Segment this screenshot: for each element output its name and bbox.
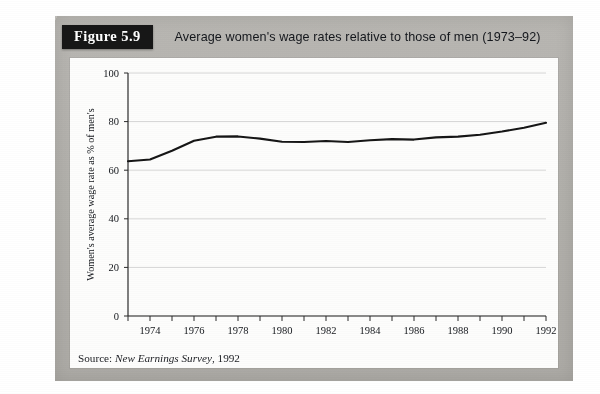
figure-title: Average women's wage rates relative to t… — [175, 30, 541, 44]
y-axis-group — [124, 73, 128, 316]
x-tick-label: 1982 — [316, 325, 337, 336]
y-tick-labels-group: 020406080100 — [103, 68, 119, 322]
y-tick-label: 0 — [114, 311, 119, 322]
x-axis-group — [128, 316, 546, 321]
gridlines-group — [128, 73, 546, 316]
x-tick-label: 1978 — [228, 325, 249, 336]
x-tick-labels-group: 1974197619781980198219841986198819901992 — [140, 325, 557, 336]
figure-number-badge: Figure 5.9 — [62, 25, 153, 49]
x-tick-label: 1990 — [492, 325, 513, 336]
x-tick-label: 1984 — [360, 325, 382, 336]
x-tick-label: 1992 — [536, 325, 557, 336]
y-axis-title-group: Women's average wage rate as % of men's — [85, 108, 96, 280]
y-tick-label: 40 — [109, 213, 120, 224]
data-series-group — [128, 123, 546, 161]
y-tick-label: 100 — [103, 68, 119, 79]
y-tick-label: 20 — [109, 262, 120, 273]
figure-root: Figure 5.9 Average women's wage rates re… — [0, 0, 600, 394]
source-prefix: Source: — [78, 352, 112, 364]
x-tick-label: 1988 — [448, 325, 469, 336]
x-tick-label: 1986 — [404, 325, 425, 336]
line-chart-svg: 020406080100 197419761978198019821984198… — [70, 58, 558, 368]
source-note: Source: New Earnings Survey, 1992 — [78, 352, 240, 364]
chart-plot-area: 020406080100 197419761978198019821984198… — [70, 58, 558, 368]
source-publication-title: New Earnings Survey — [115, 352, 212, 364]
data-series-line — [128, 123, 546, 161]
source-year: , 1992 — [212, 352, 240, 364]
figure-title-row: Figure 5.9 Average women's wage rates re… — [62, 24, 567, 50]
x-tick-label: 1980 — [272, 325, 293, 336]
x-tick-label: 1976 — [184, 325, 205, 336]
y-axis-title: Women's average wage rate as % of men's — [85, 108, 96, 280]
y-tick-label: 80 — [109, 116, 120, 127]
x-tick-label: 1974 — [140, 325, 162, 336]
y-tick-label: 60 — [109, 165, 120, 176]
